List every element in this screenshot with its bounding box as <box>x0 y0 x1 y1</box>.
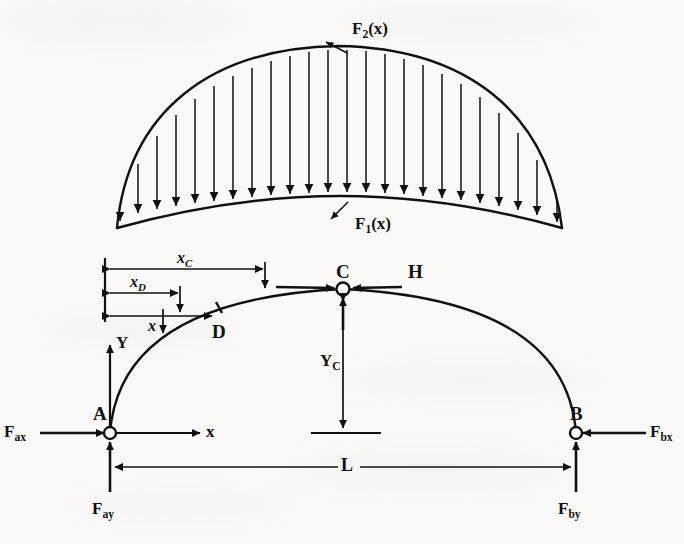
label-axis-x: x <box>206 423 215 440</box>
figure-canvas: F2(x) F1(x) xC xD x YC L Y x A D C B Fax… <box>0 0 684 544</box>
label-force-Fax: Fax <box>4 423 26 444</box>
label-force-Fbx: Fbx <box>650 423 673 444</box>
label-point-D: D <box>212 322 226 341</box>
upper-load-leader <box>326 42 347 53</box>
label-point-C: C <box>336 262 350 281</box>
label-point-A: A <box>93 404 107 423</box>
label-point-B: B <box>570 404 583 423</box>
label-dimension-x: x <box>148 318 156 334</box>
force-H-left-arrow[interactable] <box>276 287 334 288</box>
label-F2x: F2(x) <box>352 20 388 41</box>
label-dimension-xC: xC <box>177 250 192 269</box>
label-force-Fby: Fby <box>558 500 581 521</box>
label-F1x: F1(x) <box>355 215 391 236</box>
support-B-pin[interactable] <box>570 427 582 439</box>
label-dimension-xD: xD <box>130 274 146 293</box>
label-dimension-YC: YC <box>320 352 341 373</box>
support-A-pin[interactable] <box>104 427 116 439</box>
label-force-Fay: Fay <box>92 500 114 521</box>
lower-load-curve <box>117 196 562 228</box>
lower-load-leader <box>331 202 348 219</box>
force-H-right-arrow[interactable] <box>353 287 402 288</box>
hinge-C[interactable] <box>337 283 350 296</box>
upper-load-curve <box>117 46 562 228</box>
distributed-load-diagram <box>117 40 562 228</box>
label-axis-Y: Y <box>116 334 128 351</box>
label-force-H: H <box>408 262 423 281</box>
label-dimension-L: L <box>341 456 353 474</box>
